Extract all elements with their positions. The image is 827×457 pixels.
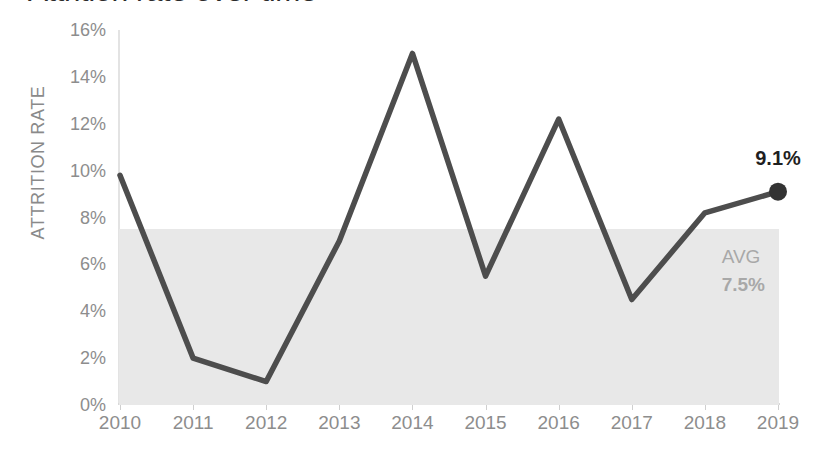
y-axis-tick-label: 2% (52, 349, 106, 367)
x-axis-tick-label: 2012 (245, 412, 287, 434)
y-axis-tick-label: 12% (52, 115, 106, 133)
x-axis-tick-mark (193, 405, 194, 410)
plot-area: AVG 7.5% (118, 30, 780, 405)
y-axis-tick-label: 10% (52, 162, 106, 180)
x-axis-tick-label: 2010 (99, 412, 141, 434)
x-axis-tick-label: 2013 (318, 412, 360, 434)
y-axis-tick-label: 4% (52, 302, 106, 320)
x-axis-tick-label: 2014 (391, 412, 433, 434)
x-axis-tick-label: 2015 (464, 412, 506, 434)
x-axis-tick-mark (412, 405, 413, 410)
data-series-line (118, 30, 780, 405)
x-axis-tick-label: 2011 (173, 412, 214, 434)
y-axis-tick-label: 14% (52, 68, 106, 86)
x-axis-tick-mark (632, 405, 633, 410)
y-axis-tick-label: 16% (52, 21, 106, 39)
x-axis-tick-label: 2019 (757, 412, 799, 434)
x-axis-tick-mark (559, 405, 560, 410)
endpoint-marker (769, 183, 787, 201)
x-axis-tick-mark (120, 405, 121, 410)
x-axis-tick-mark (778, 405, 779, 410)
x-axis-tick-labels: 2010201120122013201420152016201720182019 (118, 412, 780, 442)
y-axis-tick-label: 8% (52, 209, 106, 227)
attrition-rate-line-chart: Attrition rate over time ATTRITION RATE … (0, 0, 827, 457)
x-axis-tick-label: 2016 (538, 412, 580, 434)
y-axis-title: ATTRITION RATE (28, 63, 49, 263)
x-axis-tick-mark (705, 405, 706, 410)
x-axis-tick-label: 2017 (611, 412, 653, 434)
x-axis-tick-label: 2018 (684, 412, 726, 434)
x-axis-tick-mark (339, 405, 340, 410)
endpoint-value-label: 9.1% (755, 147, 801, 170)
attrition-rate-line (120, 53, 778, 381)
y-axis-tick-label: 6% (52, 255, 106, 273)
x-axis-tick-mark (266, 405, 267, 410)
x-axis-tick-mark (486, 405, 487, 410)
y-axis-tick-labels: 0%2%4%6%8%10%12%14%16% (52, 0, 106, 457)
